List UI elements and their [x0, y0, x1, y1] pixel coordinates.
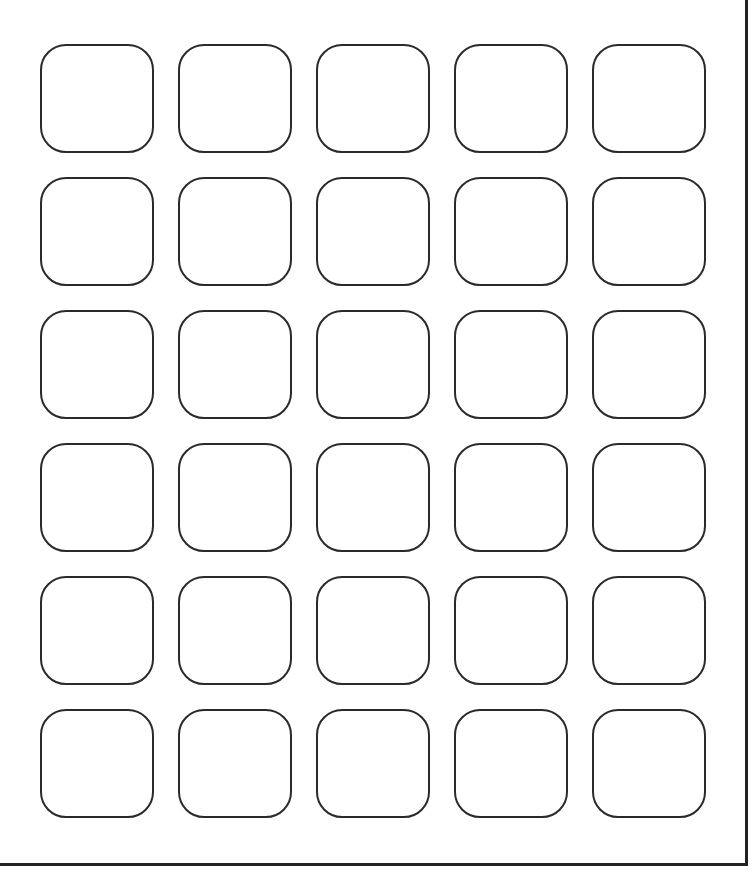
label-box	[592, 576, 706, 685]
label-box	[40, 310, 154, 419]
page-border-right	[745, 0, 748, 866]
label-grid	[40, 44, 705, 820]
label-box	[454, 310, 568, 419]
label-box	[178, 443, 292, 552]
label-box	[178, 709, 292, 818]
label-box	[592, 310, 706, 419]
label-box	[316, 44, 430, 153]
label-box	[454, 443, 568, 552]
label-box	[592, 44, 706, 153]
label-box	[316, 443, 430, 552]
label-box	[40, 709, 154, 818]
label-box	[40, 443, 154, 552]
label-box	[316, 576, 430, 685]
label-box	[592, 177, 706, 286]
label-box	[40, 44, 154, 153]
label-box	[316, 310, 430, 419]
label-box	[178, 44, 292, 153]
label-box	[454, 576, 568, 685]
label-box	[454, 709, 568, 818]
label-box	[178, 310, 292, 419]
label-box	[592, 443, 706, 552]
label-box	[316, 177, 430, 286]
label-box	[454, 44, 568, 153]
label-box	[592, 709, 706, 818]
label-box	[40, 177, 154, 286]
label-box	[316, 709, 430, 818]
label-box	[454, 177, 568, 286]
label-box	[40, 576, 154, 685]
label-box	[178, 576, 292, 685]
label-box	[178, 177, 292, 286]
page-border-bottom	[0, 863, 748, 866]
